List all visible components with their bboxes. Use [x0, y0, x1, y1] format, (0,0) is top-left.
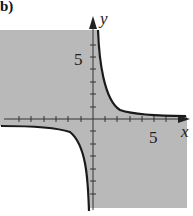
x-tick-label-5: 5	[149, 128, 158, 147]
y-axis-arrow-icon	[89, 16, 97, 29]
hyperbola-graph: y x 5 5	[0, 0, 193, 216]
x-axis-label: x	[180, 122, 189, 141]
y-axis-label: y	[98, 9, 108, 28]
y-tick-label-5: 5	[74, 50, 83, 69]
curve-branch-left	[1, 126, 89, 211]
